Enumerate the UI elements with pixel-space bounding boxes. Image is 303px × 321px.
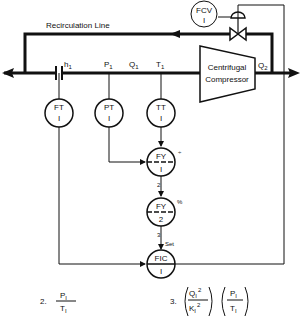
tt-instrument[interactable]: TT I — [147, 99, 175, 127]
signal-label-2: 2 — [157, 182, 161, 188]
divide-function-icon: ÷ — [178, 149, 182, 155]
svg-text:I: I — [160, 114, 162, 123]
fy1-divider[interactable]: FY I — [147, 148, 175, 176]
control-signal-line — [175, 5, 284, 264]
fic-controller[interactable]: FIC I — [147, 250, 175, 278]
svg-text:FIC: FIC — [155, 254, 168, 263]
label-q2: Q2 — [258, 61, 268, 71]
ft-instrument[interactable]: FT I — [45, 99, 73, 127]
label-q1: Q1 — [129, 60, 139, 70]
svg-text:TI: TI — [230, 304, 237, 314]
equation-3: 3. QI2 KI2 PI TI — [170, 287, 248, 316]
svg-text:2.: 2. — [40, 297, 47, 306]
svg-text:FY: FY — [156, 202, 167, 211]
svg-text:3.: 3. — [170, 297, 177, 306]
p-and-id-diagram: Recirculation Line FCV I Centrifugal Com… — [0, 0, 303, 321]
fy2-computing-relay[interactable]: FY 2 — [147, 198, 175, 226]
label-h1: h1 — [64, 60, 72, 70]
label-p1: P1 — [104, 60, 113, 70]
svg-text:QI2: QI2 — [189, 287, 202, 299]
svg-text:I: I — [160, 267, 162, 276]
svg-text:PI: PI — [60, 291, 67, 301]
fcv-instrument[interactable]: FCV I — [191, 1, 217, 27]
svg-text:Compressor: Compressor — [205, 75, 249, 84]
svg-text:I: I — [160, 165, 162, 174]
setpoint-label: Set — [165, 241, 174, 247]
svg-text:FT: FT — [54, 103, 64, 112]
centrifugal-compressor[interactable]: Centrifugal Compressor — [200, 46, 255, 102]
svg-text:FCV: FCV — [196, 6, 213, 15]
svg-text:PT: PT — [104, 103, 114, 112]
svg-text:FY: FY — [156, 152, 167, 161]
percent-function-icon: % — [177, 199, 183, 205]
svg-text:2: 2 — [159, 215, 164, 224]
label-t1: T1 — [156, 60, 165, 70]
recirculation-label: Recirculation Line — [46, 21, 110, 30]
svg-text:I: I — [108, 114, 110, 123]
signal-label-3: 3 — [157, 232, 161, 238]
svg-text:I: I — [203, 16, 205, 25]
pt-instrument[interactable]: PT I — [95, 99, 123, 127]
flow-arrow-icon — [170, 30, 180, 38]
svg-text:TI: TI — [60, 304, 67, 314]
svg-text:Centrifugal: Centrifugal — [208, 63, 247, 72]
svg-text:I: I — [58, 114, 60, 123]
svg-text:TT: TT — [156, 103, 166, 112]
equation-2: 2. PI TI — [40, 291, 76, 314]
svg-text:KI2: KI2 — [189, 302, 201, 314]
svg-text:PI: PI — [230, 289, 237, 299]
